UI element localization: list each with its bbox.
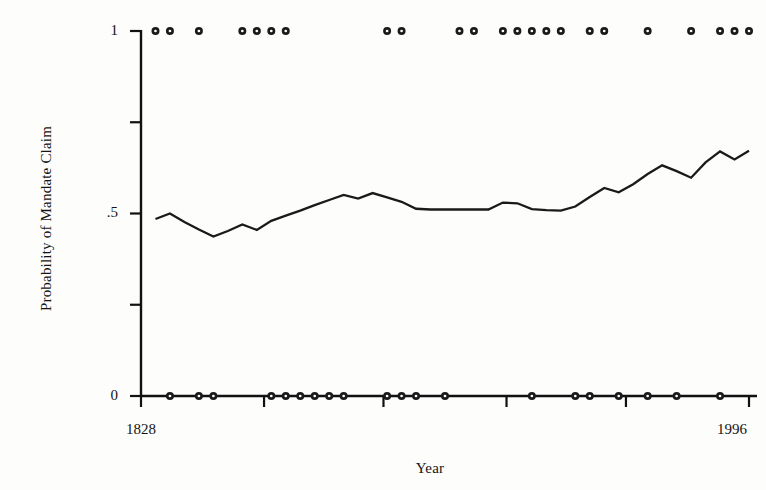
y-tick-marks (130, 31, 141, 396)
scatter-marker-center (284, 395, 287, 398)
scatter-marker-center (270, 30, 273, 33)
scatter-marker-center (444, 395, 447, 398)
chart-figure: Probability of Mandate Claim Year 1 .5 0… (0, 0, 766, 490)
scatter-marker-center (415, 395, 418, 398)
scatter-marker-center (502, 30, 505, 33)
probability-line (155, 151, 749, 237)
y-axis-title: Probability of Mandate Claim (38, 94, 55, 344)
y-tick-label-half: .5 (78, 204, 118, 221)
scatter-marker-center (617, 395, 620, 398)
scatter-marker-center (719, 30, 722, 33)
scatter-marker-center (574, 395, 577, 398)
scatter-marker-center (516, 30, 519, 33)
scatter-marker-center (198, 395, 201, 398)
scatter-marker-center (198, 30, 201, 33)
x-axis-title: Year (380, 460, 480, 477)
y-tick-label-1: 1 (78, 22, 118, 39)
scatter-marker-center (545, 30, 548, 33)
scatter-marker-center (386, 30, 389, 33)
scatter-marker-center (154, 30, 157, 33)
axis-lines (141, 30, 757, 396)
scatter-marker-center (400, 395, 403, 398)
scatter-marker-center (284, 30, 287, 33)
scatter-marker-center (342, 395, 345, 398)
scatter-marker-center (531, 395, 534, 398)
scatter-marker-center (458, 30, 461, 33)
x-tick-label-max: 1996 (697, 421, 766, 438)
scatter-marker-center (386, 395, 389, 398)
scatter-marker-center (646, 30, 649, 33)
x-tick-label-min: 1828 (106, 421, 176, 438)
scatter-marker-center (733, 30, 736, 33)
scatter-marker-center (675, 395, 678, 398)
scatter-marker-center (559, 30, 562, 33)
scatter-marker-center (313, 395, 316, 398)
scatter-marker-center (473, 30, 476, 33)
scatter-points-mandate-yes (151, 27, 753, 35)
scatter-marker-center (328, 395, 331, 398)
scatter-marker-center (241, 30, 244, 33)
scatter-marker-center (169, 395, 172, 398)
chart-plot-area (0, 0, 766, 490)
scatter-marker-center (748, 30, 751, 33)
scatter-marker-center (588, 395, 591, 398)
scatter-marker-center (690, 30, 693, 33)
probability-polyline (155, 151, 749, 237)
scatter-marker-center (719, 395, 722, 398)
y-tick-label-0: 0 (78, 387, 118, 404)
scatter-marker-center (400, 30, 403, 33)
scatter-marker-center (646, 395, 649, 398)
scatter-marker-center (212, 395, 215, 398)
scatter-marker-center (255, 30, 258, 33)
scatter-marker-center (588, 30, 591, 33)
scatter-marker-center (169, 30, 172, 33)
scatter-marker-center (299, 395, 302, 398)
scatter-marker-center (531, 30, 534, 33)
scatter-marker-center (603, 30, 606, 33)
scatter-marker-center (270, 395, 273, 398)
